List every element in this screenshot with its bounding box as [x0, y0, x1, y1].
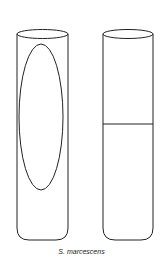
tube-right	[103, 30, 153, 241]
figure-caption: S. marcescens	[0, 248, 163, 255]
diagram	[0, 0, 163, 265]
tube-right-rim	[103, 30, 153, 39]
tube-right-body	[103, 34, 153, 240]
tube-left-rim	[17, 30, 68, 39]
tube-left-inner-ellipse	[19, 44, 63, 190]
tube-left	[17, 30, 68, 241]
tube-left-body	[17, 34, 68, 240]
